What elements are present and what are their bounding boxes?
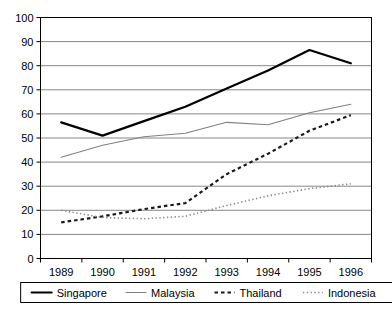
legend-label-singapore: Singapore	[57, 287, 107, 299]
x-tick-label: 1989	[49, 266, 73, 278]
legend-label-thailand: Thailand	[240, 287, 282, 299]
legend-label-indonesia: Indonesia	[328, 287, 377, 299]
y-tick-label: 10	[21, 228, 33, 240]
line-chart: 0102030405060708090100198919901991199219…	[0, 0, 392, 320]
x-axis: 19891990199119921993199419951996	[41, 259, 372, 278]
y-tick-label: 90	[21, 36, 33, 48]
chart-canvas: 0102030405060708090100198919901991199219…	[0, 0, 392, 320]
x-tick-label: 1993	[214, 266, 238, 278]
y-tick-label: 100	[15, 12, 33, 24]
y-axis: 0102030405060708090100	[15, 12, 40, 265]
y-tick-label: 50	[21, 132, 33, 144]
x-tick-label: 1990	[90, 266, 114, 278]
x-tick-label: 1992	[173, 266, 197, 278]
series-group	[61, 50, 351, 222]
y-tick-label: 20	[21, 204, 33, 216]
series-line-thailand	[61, 115, 351, 222]
y-tick-label: 70	[21, 84, 33, 96]
x-tick-label: 1994	[256, 266, 280, 278]
y-tick-label: 30	[21, 180, 33, 192]
y-tick-label: 80	[21, 60, 33, 72]
series-line-singapore	[61, 50, 351, 136]
x-tick-label: 1996	[339, 266, 363, 278]
y-tick-label: 0	[27, 253, 33, 265]
legend: SingaporeMalaysiaThailandIndonesia	[21, 283, 392, 303]
y-tick-label: 60	[21, 108, 33, 120]
x-tick-label: 1991	[132, 266, 156, 278]
x-tick-label: 1995	[297, 266, 321, 278]
y-tick-label: 40	[21, 156, 33, 168]
legend-label-malaysia: Malaysia	[151, 287, 195, 299]
